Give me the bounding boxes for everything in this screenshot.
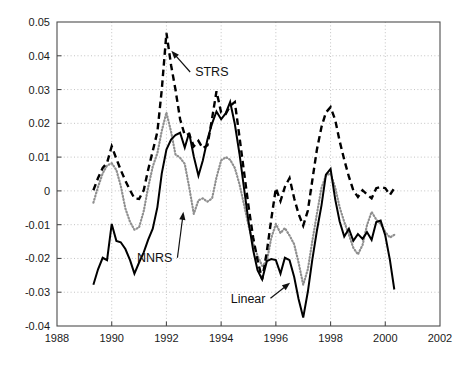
annotation-label-strs: STRS <box>195 65 228 79</box>
xtick-label: 1992 <box>154 332 178 344</box>
ytick-label: 0.03 <box>29 84 50 96</box>
xtick-label: 2000 <box>373 332 397 344</box>
ytick-label: 0.02 <box>29 117 50 129</box>
chart-figure: 198819901992199419961998200020020.050.04… <box>0 0 471 367</box>
ytick-label: 0.01 <box>29 151 50 163</box>
ytick-label: 0 <box>44 185 50 197</box>
plot-background <box>0 0 471 367</box>
xtick-label: 1998 <box>318 332 342 344</box>
ytick-label: -0.01 <box>25 219 50 231</box>
ytick-label: -0.02 <box>25 252 50 264</box>
annotation-label-nnrs: NNRS <box>137 251 172 265</box>
ytick-label: 0.05 <box>29 16 50 28</box>
xtick-label: 1994 <box>209 332 233 344</box>
ytick-label: 0.04 <box>29 50 50 62</box>
ytick-label: -0.03 <box>25 286 50 298</box>
xtick-label: 1990 <box>99 332 123 344</box>
ytick-label: -0.04 <box>25 320 50 332</box>
xtick-label: 1996 <box>264 332 288 344</box>
xtick-label: 2002 <box>428 332 452 344</box>
xtick-label: 1988 <box>45 332 69 344</box>
annotation-label-linear: Linear <box>231 292 266 306</box>
